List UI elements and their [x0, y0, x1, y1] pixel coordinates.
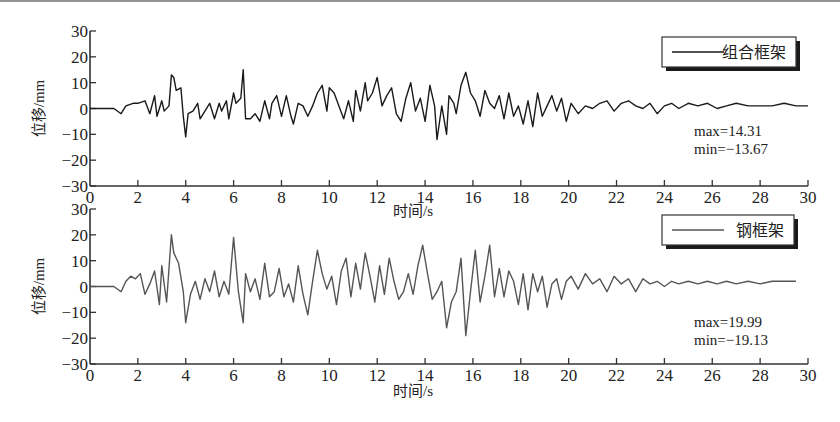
- chart-figure: −30−20−100102030024681012141618202224262…: [0, 0, 840, 422]
- y-tick-label: −10: [61, 125, 88, 144]
- x-tick-label: 28: [752, 366, 769, 385]
- x-tick-label: 4: [181, 366, 190, 385]
- x-tick-label: 20: [560, 188, 577, 207]
- y-tick-label: −10: [61, 303, 88, 322]
- x-tick-label: 26: [704, 366, 721, 385]
- x-tick-label: 16: [464, 188, 481, 207]
- legend-label: 组合框架: [722, 44, 786, 61]
- series-line: [90, 235, 796, 336]
- x-tick-label: 24: [656, 366, 674, 385]
- min-annotation: min=−19.13: [694, 332, 768, 348]
- x-tick-label: 10: [321, 366, 338, 385]
- x-tick-label: 22: [608, 366, 625, 385]
- x-tick-label: 16: [464, 366, 481, 385]
- chart-panel-2: −30−20−100102030024681012141618202224262…: [31, 200, 817, 399]
- x-tick-label: 30: [800, 366, 817, 385]
- x-tick-label: 6: [229, 188, 238, 207]
- x-tick-label: 22: [608, 188, 625, 207]
- legend: 钢框架: [662, 215, 798, 249]
- x-tick-label: 12: [369, 366, 386, 385]
- legend-label: 钢框架: [736, 222, 784, 239]
- x-tick-label: 8: [277, 366, 286, 385]
- x-tick-label: 10: [321, 188, 338, 207]
- y-tick-label: 0: [80, 100, 89, 119]
- y-axis-label: 位移/mm: [31, 79, 47, 137]
- x-axis-label: 时间/s: [393, 203, 433, 219]
- y-axis-label: 位移/mm: [31, 257, 47, 315]
- x-tick-label: 20: [560, 366, 577, 385]
- x-tick-label: 0: [86, 366, 95, 385]
- x-tick-label: 18: [512, 188, 529, 207]
- x-tick-label: 6: [229, 366, 238, 385]
- x-tick-label: 8: [277, 188, 286, 207]
- y-tick-label: 10: [71, 74, 88, 93]
- max-annotation: max=14.31: [694, 123, 762, 139]
- x-tick-label: 2: [134, 188, 143, 207]
- legend: 组合框架: [662, 37, 800, 71]
- x-tick-label: 2: [134, 366, 143, 385]
- x-tick-label: 18: [512, 366, 529, 385]
- x-tick-label: 28: [752, 188, 769, 207]
- x-tick-label: 4: [181, 188, 190, 207]
- y-tick-label: 30: [71, 200, 88, 219]
- x-axis-label: 时间/s: [393, 383, 433, 399]
- y-tick-label: −20: [61, 151, 88, 170]
- y-tick-label: −30: [61, 177, 88, 196]
- min-annotation: min=−13.67: [694, 141, 769, 157]
- y-tick-label: 10: [71, 252, 88, 271]
- x-tick-label: 30: [800, 188, 817, 207]
- y-tick-label: 30: [71, 22, 88, 41]
- chart-panel-1: −30−20−100102030024681012141618202224262…: [31, 22, 817, 219]
- y-tick-label: −20: [61, 329, 88, 348]
- x-tick-label: 26: [704, 188, 721, 207]
- y-tick-label: 0: [80, 278, 89, 297]
- y-tick-label: −30: [61, 355, 88, 374]
- y-tick-label: 20: [71, 226, 88, 245]
- x-tick-label: 24: [656, 188, 674, 207]
- x-tick-label: 12: [369, 188, 386, 207]
- y-tick-label: 20: [71, 48, 88, 67]
- max-annotation: max=19.99: [694, 314, 762, 330]
